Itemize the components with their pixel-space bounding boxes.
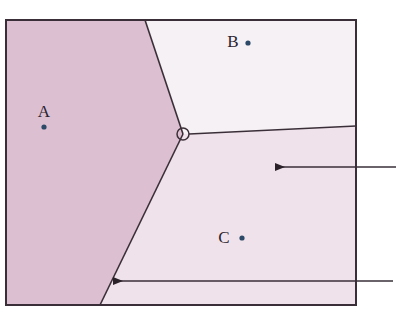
site-point-c [239,235,244,240]
voronoi-diagram-figure: A B C [0,0,400,323]
site-point-b [245,40,250,45]
voronoi-canvas: A B C [0,0,400,323]
site-label-b: B [227,32,238,51]
site-label-a: A [38,102,51,121]
site-point-a [41,124,46,129]
site-label-c: C [218,228,229,247]
